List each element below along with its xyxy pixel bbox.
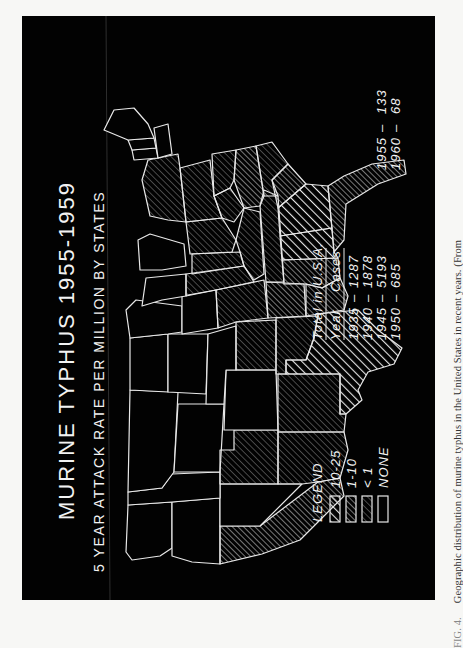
legend-item-none: NONE xyxy=(376,446,391,522)
state-michigan xyxy=(138,234,186,270)
state-colorado xyxy=(224,370,278,430)
row-year: 1945 xyxy=(374,307,389,340)
totals-col-cases: Cases xyxy=(328,250,343,292)
state-wyoming xyxy=(174,404,224,472)
map-subtitle: 5 YEAR ATTACK RATE PER MILLION BY STATES xyxy=(91,191,107,572)
state-montana xyxy=(128,390,178,492)
figure-svg: MURINE TYPHUS 1955-1959 5 YEAR ATTACK RA… xyxy=(22,16,435,600)
row-cases: 133 xyxy=(374,89,389,114)
row-dash: – xyxy=(388,124,403,133)
state-north-dakota xyxy=(130,334,168,392)
state-utah xyxy=(220,430,278,484)
figure-caption: FIG. 4.Geographic distribution of murine… xyxy=(452,240,463,648)
state-iowa xyxy=(182,290,218,334)
row-cases: 1287 xyxy=(346,255,361,288)
table-row: 1960 – 68 xyxy=(388,98,403,170)
state-new-york xyxy=(142,154,186,222)
state-maine xyxy=(104,108,154,140)
row-cases: 5193 xyxy=(374,255,389,288)
state-kansas xyxy=(236,320,276,370)
state-arkansas xyxy=(266,282,306,318)
row-year: 1960 xyxy=(388,137,403,170)
row-cases: 68 xyxy=(388,98,403,114)
legend-item-less-than-1: < 1 xyxy=(360,467,375,522)
legend-swatch-medium xyxy=(346,496,356,522)
table-row: 1955 – 133 xyxy=(374,89,389,170)
legend-label: 1-10 xyxy=(344,458,359,488)
state-ohio xyxy=(186,218,236,254)
caption-figure-number: FIG. 4. xyxy=(452,603,463,648)
totals-col-year: Year xyxy=(328,309,343,340)
table-row: 1945 – 5193 xyxy=(374,255,389,340)
row-dash: – xyxy=(388,294,403,303)
legend-label: NONE xyxy=(376,446,391,488)
state-new-mexico xyxy=(278,374,346,432)
row-year: 1940 xyxy=(360,307,375,340)
figure-panel: MURINE TYPHUS 1955-1959 5 YEAR ATTACK RA… xyxy=(22,16,435,600)
legend-title: LEGEND xyxy=(310,463,325,522)
row-cases: 685 xyxy=(388,263,403,288)
row-dash: – xyxy=(374,124,389,133)
table-row: 1950 – 685 xyxy=(388,263,403,340)
legend-swatch-fine xyxy=(362,496,372,522)
row-cases: 1878 xyxy=(360,255,375,288)
row-dash: – xyxy=(360,294,375,303)
state-washington xyxy=(126,502,172,560)
legend-swatch-none xyxy=(378,496,388,522)
state-maryland xyxy=(212,150,236,196)
table-row: 1940 – 1878 xyxy=(360,255,375,340)
row-year: 1935 xyxy=(346,307,361,340)
legend-swatch-wide xyxy=(330,496,340,522)
table-row: 1935 – 1287 xyxy=(346,255,361,340)
caption-text: Geographic distribution of murine typhus… xyxy=(452,240,463,603)
map-title: MURINE TYPHUS 1955-1959 xyxy=(54,181,79,520)
state-wisconsin xyxy=(142,274,186,306)
state-oregon xyxy=(172,498,220,564)
state-minnesota xyxy=(126,300,182,338)
row-dash: – xyxy=(346,294,361,303)
row-year: 1950 xyxy=(388,307,403,340)
legend-label: 10-25 xyxy=(328,450,343,488)
state-south-dakota xyxy=(168,334,208,394)
landscape-content: MURINE TYPHUS 1955-1959 5 YEAR ATTACK RA… xyxy=(54,16,406,600)
legend-label: < 1 xyxy=(360,467,375,488)
legend-item-1-10: 1-10 xyxy=(344,458,359,522)
state-florida xyxy=(328,160,406,252)
totals-title: Total in U.S.A. xyxy=(310,242,325,340)
legend-item-10-25: 10-25 xyxy=(328,450,343,522)
row-year: 1955 xyxy=(374,137,389,170)
row-dash: – xyxy=(374,294,389,303)
